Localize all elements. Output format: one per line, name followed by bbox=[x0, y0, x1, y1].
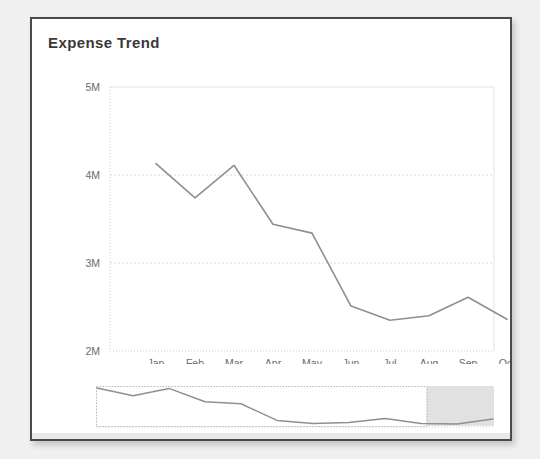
chart-card: Expense Trend 5M4M3M2M JanFebMarAprMayJu… bbox=[30, 17, 512, 441]
line-chart-svg: 5M4M3M2M JanFebMarAprMayJunJulAugSepOct bbox=[32, 19, 510, 364]
y-axis-ticks: 5M4M3M2M bbox=[85, 81, 100, 357]
range-selector[interactable] bbox=[96, 384, 494, 432]
x-axis-tick-label: Aug bbox=[420, 357, 439, 364]
x-axis-tick-label: Jan bbox=[148, 357, 165, 364]
screenshot-root: Expense Trend 5M4M3M2M JanFebMarAprMayJu… bbox=[0, 0, 540, 459]
range-selector-svg bbox=[96, 384, 494, 432]
chart-card-inner: Expense Trend 5M4M3M2M JanFebMarAprMayJu… bbox=[32, 19, 510, 439]
line-chart[interactable]: 5M4M3M2M JanFebMarAprMayJunJulAugSepOct bbox=[32, 19, 510, 439]
x-axis-ticks: JanFebMarAprMayJunJulAugSepOct bbox=[148, 357, 510, 364]
x-axis-tick-label: Oct bbox=[499, 357, 510, 364]
range-selector-handle-left[interactable] bbox=[96, 386, 99, 426]
x-axis-tick-label: Apr bbox=[265, 357, 282, 364]
x-axis-tick-label: Sep bbox=[459, 357, 478, 364]
y-axis-tick-label: 4M bbox=[85, 169, 100, 181]
x-axis-tick-label: Feb bbox=[186, 357, 204, 364]
range-selector-handle-right[interactable] bbox=[423, 386, 429, 426]
x-axis-tick-label: Jun bbox=[343, 357, 360, 364]
gridlines bbox=[110, 87, 494, 351]
y-axis-tick-label: 3M bbox=[85, 257, 100, 269]
series-line-expense[interactable] bbox=[156, 164, 507, 321]
series-expense[interactable] bbox=[156, 164, 507, 321]
x-axis-tick-label: Mar bbox=[225, 357, 244, 364]
x-axis-tick-label: Jul bbox=[383, 357, 396, 364]
x-axis-tick-label: May bbox=[302, 357, 323, 364]
y-axis-tick-label: 2M bbox=[85, 345, 100, 357]
y-axis-tick-label: 5M bbox=[85, 81, 100, 93]
navigator-bottom-strip bbox=[32, 433, 510, 439]
range-selector-content bbox=[96, 386, 494, 427]
